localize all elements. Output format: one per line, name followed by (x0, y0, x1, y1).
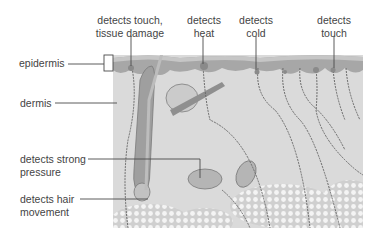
label-line: movement (20, 206, 74, 219)
label-line: cold (236, 27, 276, 40)
label-line: detects strong (20, 153, 86, 166)
label-epidermis: epidermis (19, 57, 65, 70)
label-line: detects (184, 14, 224, 27)
label-line: tissue damage (90, 27, 170, 40)
label-cold: detects cold (236, 14, 276, 39)
label-touch: detects touch (314, 14, 354, 39)
label-touch-damage: detects touch, tissue damage (90, 14, 170, 39)
label-line: detects (236, 14, 276, 27)
label-strong-pressure: detects strong pressure (20, 153, 86, 178)
pacinian-corpuscle (188, 169, 222, 189)
label-line: detects hair (20, 193, 74, 206)
label-heat: detects heat (184, 14, 224, 39)
label-line: heat (184, 27, 224, 40)
label-line: detects touch, (90, 14, 170, 27)
label-line: pressure (20, 166, 86, 179)
label-line: detects (314, 14, 354, 27)
label-hair-movement: detects hair movement (20, 193, 74, 218)
label-dermis: dermis (20, 97, 52, 110)
label-line: touch (314, 27, 354, 40)
